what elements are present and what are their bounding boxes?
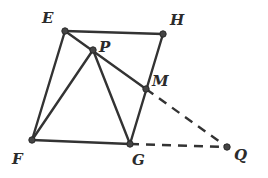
label-e: E: [41, 9, 54, 27]
segment-pf: [32, 50, 93, 140]
label-q: Q: [234, 146, 247, 164]
dashed-segment-gq: [130, 144, 227, 147]
point-m: [143, 86, 149, 92]
label-f: F: [11, 150, 24, 168]
diagram-svg: EHPMFGQ: [0, 0, 268, 178]
point-p: [90, 47, 96, 53]
label-g: G: [132, 151, 145, 169]
point-q: [224, 144, 230, 150]
point-e: [62, 28, 68, 34]
label-h: H: [169, 11, 185, 29]
point-h: [160, 31, 166, 37]
point-f: [29, 137, 35, 143]
segment-eh: [65, 31, 163, 34]
point-g: [127, 141, 133, 147]
segment-fg: [32, 140, 130, 144]
geometry-diagram: EHPMFGQ: [0, 0, 268, 178]
segment-ef: [32, 31, 65, 140]
label-p: P: [98, 38, 111, 56]
label-m: M: [151, 72, 169, 90]
vertices: [29, 28, 230, 150]
dashed-segment-mq: [146, 89, 227, 147]
